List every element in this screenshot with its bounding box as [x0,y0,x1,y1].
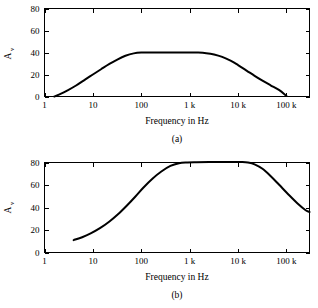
gain-curve-a [54,52,286,96]
y-axis-symbol-b: A [3,206,13,213]
y-tick-label: 20 [31,225,41,235]
y-tick-label: 80 [31,4,41,14]
y-tick-label: 20 [31,70,41,80]
x-tick-label: 100 [135,100,149,110]
y-tick-label: 60 [31,180,41,190]
x-tick-label: 10 [88,256,98,266]
y-tick-label: 0 [35,92,40,102]
x-tick-label: 10 k [230,256,246,266]
x-tick-label: 100 k [276,100,297,110]
x-axis-tick-labels-b: 1101001 k10 k100 k [42,256,297,266]
y-axis-title-a: A v [3,47,15,59]
x-tick-label: 10 k [230,100,246,110]
y-tick-label: 60 [31,26,41,36]
x-tick-label: 1 [42,100,47,110]
frequency-response-figure: 020406080 1101001 k10 k100 k A v Frequen… [0,0,318,308]
y-axis-subscript-a: v [8,47,15,51]
y-axis-tick-labels-a: 020406080 [31,4,41,102]
x-tick-label: 1 [42,256,47,266]
y-tick-label: 0 [35,248,40,258]
caption-b: (b) [171,290,182,301]
gain-curve-b [74,162,310,240]
y-tick-label: 40 [31,203,41,213]
y-axis-symbol-a: A [3,52,13,59]
x-tick-label: 10 [88,100,98,110]
x-axis-title-a: Frequency in Hz [145,116,208,126]
chart-a-canvas: 020406080 1101001 k10 k100 k A v Frequen… [0,0,318,152]
y-axis-title-b: A v [3,201,15,213]
x-tick-label: 1 k [184,100,196,110]
chart-panel-a: 020406080 1101001 k10 k100 k A v Frequen… [0,0,318,152]
y-tick-label: 80 [31,158,41,168]
x-axis-title-b: Frequency in Hz [145,272,208,282]
x-tick-label: 100 k [276,256,297,266]
x-axis-tick-labels-a: 1101001 k10 k100 k [42,100,297,110]
chart-panel-b: 020406080 1101001 k10 k100 k A v Frequen… [0,152,318,308]
y-tick-label: 40 [31,48,41,58]
caption-a: (a) [172,134,183,145]
x-tick-label: 100 [135,256,149,266]
y-axis-subscript-b: v [8,201,15,205]
x-tick-label: 1 k [184,256,196,266]
chart-b-canvas: 020406080 1101001 k10 k100 k A v Frequen… [0,152,318,308]
y-axis-tick-labels-b: 020406080 [31,158,41,258]
